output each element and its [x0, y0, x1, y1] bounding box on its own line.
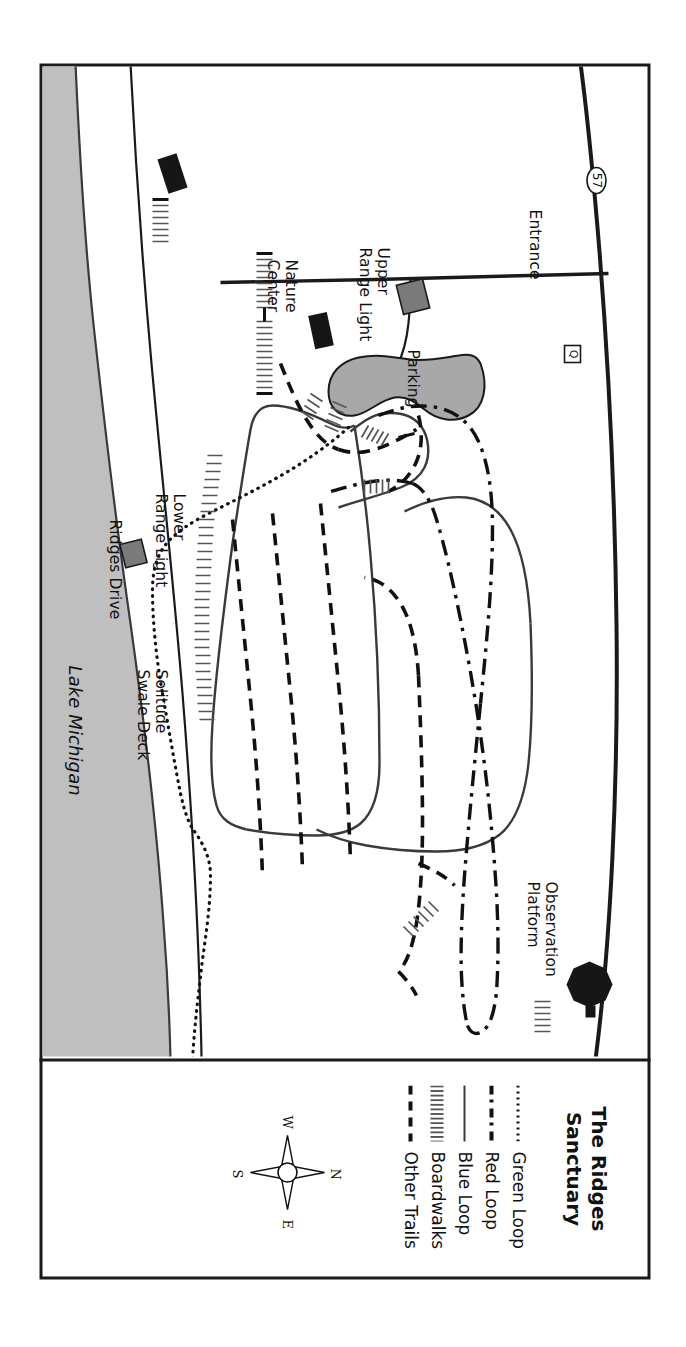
red-loop-trail-c — [413, 484, 499, 1034]
legend-label-other-trails: Other Trails — [401, 1142, 421, 1249]
label-solitude-swale-deck-line2: Swale Deck — [133, 670, 150, 761]
other-trail-cross-2 — [273, 514, 303, 870]
label-lower-range-light-line1: Lower — [169, 494, 186, 541]
map-title: The Ridges Sanctuary — [561, 1062, 611, 1277]
other-trail-cross-3 — [233, 520, 263, 876]
label-highway-57: 57 — [590, 168, 604, 194]
compass-label-east: E — [280, 1220, 295, 1230]
blue-loop-trail-upper-left — [405, 497, 531, 623]
map-page: Entrance Parking Nature Center Upper Ran… — [0, 0, 686, 1347]
boardwalk-upper-diagonal — [404, 902, 439, 937]
label-observation-platform-line1: Observation — [541, 882, 558, 978]
map-title-line1: The Ridges — [586, 1062, 611, 1277]
legend-label-red-loop: Red Loop — [482, 1142, 502, 1230]
label-nature-center-line1: Nature — [281, 260, 298, 313]
label-upper-range-light-line2: Range Light — [355, 248, 372, 342]
compass-label-north: N — [328, 1169, 343, 1180]
green-loop-trail — [153, 428, 349, 694]
label-ridges-drive: Ridges Drive — [105, 520, 122, 620]
red-loop-trail-d — [331, 480, 413, 491]
legend-key-dashdot — [484, 1086, 500, 1142]
highway-57-road — [581, 64, 617, 1060]
other-trail-observation-link — [399, 972, 417, 996]
boardwalk-observation — [535, 1002, 551, 1032]
legend-items: Green Loop Red Loop Blue Loop — [398, 1086, 533, 1276]
lower-range-light-marker — [120, 539, 147, 568]
legend-key-dashed — [403, 1086, 419, 1142]
upper-range-light-marker — [396, 279, 429, 315]
label-county-q: Q — [567, 346, 580, 363]
label-lake-michigan: Lake Michigan — [64, 666, 84, 796]
compass-rose: N S W E — [243, 1128, 333, 1218]
compass-label-south: S — [230, 1170, 245, 1179]
legend-panel: The Ridges Sanctuary Green Loop Red Loop — [40, 1062, 651, 1277]
label-parking: Parking — [403, 350, 420, 408]
legend-key-solid — [457, 1086, 473, 1142]
nature-center-marker — [308, 312, 334, 349]
compass-label-west: W — [280, 1116, 295, 1129]
boardwalk-mid-connector-a — [257, 322, 273, 388]
other-trail-obs-spur — [419, 864, 455, 886]
legend-label-green-loop: Green Loop — [509, 1142, 529, 1250]
red-loop-trail — [379, 406, 493, 704]
label-entrance: Entrance — [525, 210, 542, 280]
boardwalk-parking — [362, 426, 389, 446]
blue-loop-trail-main — [247, 426, 380, 836]
legend-label-boardwalks: Boardwalks — [428, 1142, 448, 1250]
label-observation-platform-line2: Platform — [523, 882, 540, 948]
red-loop-trail-b — [461, 704, 480, 1026]
legend-item-blue-loop: Blue Loop — [452, 1086, 479, 1276]
observation-platform-stub — [586, 1006, 596, 1018]
legend-item-other-trails: Other Trails — [398, 1086, 425, 1276]
legend-item-boardwalks: Boardwalks — [425, 1086, 452, 1276]
label-nature-center-line2: Center — [263, 260, 280, 313]
green-loop-trail-d — [171, 404, 351, 590]
solitude-swale-deck-marker — [157, 153, 187, 193]
compass-rose-icon — [243, 1128, 333, 1218]
other-trail-parking-spur — [389, 416, 422, 492]
label-lower-range-light-line2: Range Light — [151, 494, 168, 588]
legend-label-blue-loop: Blue Loop — [455, 1142, 475, 1236]
map-title-line2: Sanctuary — [561, 1062, 586, 1277]
boardwalk-south-loop — [195, 456, 223, 720]
legend-item-red-loop: Red Loop — [479, 1086, 506, 1276]
other-trail-north-long — [399, 676, 423, 972]
rotated-figure: Entrance Parking Nature Center Upper Ran… — [36, 64, 651, 1284]
label-upper-range-light-line1: Upper — [373, 248, 390, 295]
label-solitude-swale-deck-line1: Solitude — [151, 670, 168, 734]
legend-item-green-loop: Green Loop — [506, 1086, 533, 1276]
other-trail-cross-1 — [321, 504, 351, 862]
legend-key-ladder — [430, 1086, 446, 1142]
blue-loop-trail-east-arm — [380, 764, 389, 904]
legend-key-dotted — [511, 1086, 527, 1142]
boardwalk-solitude-swale — [153, 206, 169, 242]
